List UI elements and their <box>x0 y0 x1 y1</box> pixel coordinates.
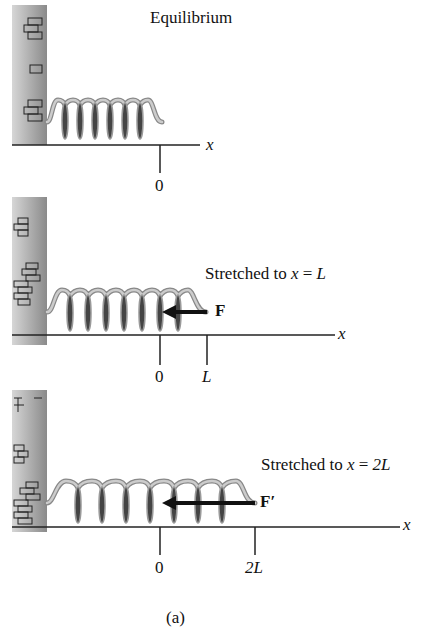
tick-label: 0 <box>155 558 164 578</box>
tick-label: L <box>202 367 211 387</box>
tick-label: 2L <box>245 558 263 578</box>
force-label: F′ <box>260 492 275 512</box>
panel-equilibrium <box>12 5 200 173</box>
panel-title: Stretched to x = L <box>205 264 326 284</box>
wall <box>12 197 47 345</box>
wall <box>12 390 47 532</box>
panel-title: Equilibrium <box>150 8 232 28</box>
axis-label: x <box>338 324 346 344</box>
wall <box>12 5 47 145</box>
panel-title: Stretched to x = 2L <box>261 455 391 475</box>
axis-label: x <box>206 135 214 155</box>
axis-label: x <box>403 515 411 535</box>
figure-caption: (a) <box>166 608 185 628</box>
force-arrow <box>162 496 255 510</box>
tick-label: 0 <box>155 367 164 387</box>
force-label: F <box>215 301 225 321</box>
tick-label: 0 <box>155 176 164 196</box>
spring-diagram <box>0 0 428 638</box>
